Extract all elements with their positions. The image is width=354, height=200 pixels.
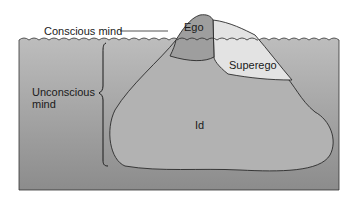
unconscious-mind-label: Unconscious mind (32, 86, 95, 110)
id-label: Id (195, 119, 204, 131)
unconscious-mind-label-line1: Unconscious (32, 86, 95, 98)
ego-label: Ego (184, 21, 204, 33)
unconscious-mind-label-line2: mind (32, 98, 95, 110)
superego-label: Superego (229, 59, 277, 71)
iceberg-diagram: Conscious mind Unconscious mind Ego Supe… (0, 0, 354, 200)
conscious-mind-label: Conscious mind (44, 25, 122, 37)
